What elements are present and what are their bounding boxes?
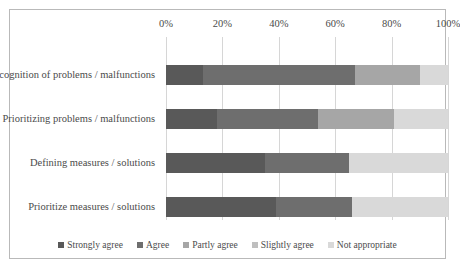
legend-item[interactable]: Not appropriate	[328, 240, 397, 250]
legend-label: Partly agree	[192, 240, 238, 250]
bar-segment	[166, 153, 265, 173]
bar-segment	[352, 197, 448, 217]
legend-item[interactable]: Partly agree	[183, 240, 238, 250]
category-label: Defining measures / solutions	[30, 157, 155, 169]
bar-segment	[349, 153, 448, 173]
bar-segment	[166, 65, 203, 85]
x-axis-tick-label: 100%	[436, 16, 460, 32]
category-label: Prioritize measures / solutions	[28, 201, 155, 213]
legend-swatch-icon	[328, 242, 334, 248]
bar-row	[166, 153, 448, 173]
chart-legend: Strongly agreeAgreePartly agreeSlightly …	[10, 240, 445, 250]
bar-segment	[265, 153, 350, 173]
legend-swatch-icon	[252, 242, 258, 248]
x-axis-tick-label: 20%	[213, 16, 232, 32]
legend-label: Slightly agree	[261, 240, 314, 250]
legend-item[interactable]: Strongly agree	[58, 240, 123, 250]
bar-segment	[420, 65, 448, 85]
gridline	[448, 37, 449, 220]
bar-row	[166, 65, 448, 85]
bar-segment	[318, 109, 394, 129]
legend-swatch-icon	[137, 242, 143, 248]
chart-frame: 0%20%40%60%80%100% Recognition of proble…	[9, 9, 446, 259]
x-axis-tick-label: 40%	[269, 16, 288, 32]
bar-segment	[203, 65, 355, 85]
legend-label: Strongly agree	[67, 240, 123, 250]
bar-segment	[394, 109, 448, 129]
legend-item[interactable]: Agree	[137, 240, 169, 250]
legend-swatch-icon	[183, 242, 189, 248]
legend-item[interactable]: Slightly agree	[252, 240, 314, 250]
category-label: Prioritizing problems / malfunctions	[2, 113, 155, 125]
bar-segment	[355, 65, 420, 85]
x-axis-tick-label: 80%	[382, 16, 401, 32]
legend-swatch-icon	[58, 242, 64, 248]
x-axis-tick-label: 60%	[326, 16, 345, 32]
x-axis-tick-label: 0%	[159, 16, 173, 32]
bar-row	[166, 197, 448, 217]
bar-segment	[276, 197, 352, 217]
legend-label: Not appropriate	[337, 240, 397, 250]
legend-label: Agree	[146, 240, 169, 250]
category-label: Recognition of problems / malfunctions	[0, 69, 155, 81]
bar-segment	[166, 197, 276, 217]
x-axis-tick-labels: 0%20%40%60%80%100%	[10, 16, 445, 32]
bar-segment	[217, 109, 319, 129]
plot-area	[166, 37, 448, 220]
bar-segment	[166, 109, 217, 129]
bar-row	[166, 109, 448, 129]
